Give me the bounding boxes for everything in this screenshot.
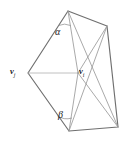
diagonal-top-to-right: [68, 11, 118, 127]
edge-top-to-center: [68, 11, 78, 73]
mesh-drawing: [0, 0, 132, 147]
alpha-label: α: [55, 27, 60, 37]
vertex-j-label: vj: [10, 67, 15, 78]
edge-bottom-to-center: [69, 73, 78, 131]
vertex-i-subscript: i: [83, 72, 85, 78]
geometry-diagram: α β vj vi: [0, 0, 132, 147]
alpha-angle-arc: [59, 24, 71, 25]
beta-label: β: [58, 110, 63, 120]
diagonal-upper-right-to-bottom: [69, 26, 107, 131]
polygon-outline: [28, 11, 118, 131]
vertex-j-subscript: j: [14, 72, 16, 78]
vertex-i-label: vi: [79, 67, 84, 78]
